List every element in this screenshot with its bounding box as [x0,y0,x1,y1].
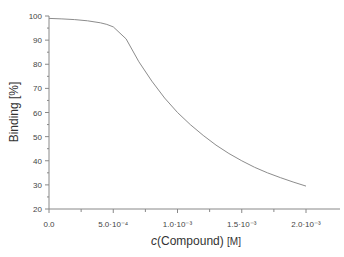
x-tick-label: 1.5·10⁻³ [227,220,257,229]
y-tick-label: 100 [29,12,43,21]
y-tick-label: 30 [33,181,42,190]
y-tick-label: 60 [33,109,42,118]
tick-labels: 10090807060504030200.05.0·10⁻⁴1.0·10⁻³1.… [29,12,321,229]
binding-curve [49,18,306,186]
x-tick-label: 2.0·10⁻³ [291,220,321,229]
y-tick-label: 80 [33,60,42,69]
tick-marks [45,16,306,213]
y-tick-label: 50 [33,133,42,142]
y-tick-label: 70 [33,84,42,93]
y-axis-title: Binding [%] [7,82,21,143]
x-axis-title: c(Compound) [M] [151,234,241,248]
binding-chart: 10090807060504030200.05.0·10⁻⁴1.0·10⁻³1.… [0,0,344,257]
axes [49,16,340,209]
x-axis-title-unit: [M] [227,236,241,247]
x-tick-label: 0.0 [43,220,55,229]
y-tick-label: 40 [33,157,42,166]
x-tick-label: 1.0·10⁻³ [163,220,193,229]
x-tick-label: 5.0·10⁻⁴ [98,220,129,229]
x-axis-title-main: (Compound) [157,234,227,248]
y-tick-label: 20 [33,205,42,214]
y-tick-label: 90 [33,36,42,45]
